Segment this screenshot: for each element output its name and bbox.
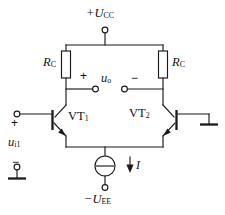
resistor-right-label: RC [172,56,185,69]
supply-positive-label: +UCC [86,7,114,20]
vt2-collector-lead [163,105,174,117]
resistor-left-label: RC [43,56,56,69]
input-minus-sign: − [12,156,19,168]
output-plus-terminal[interactable] [93,86,99,92]
resistor-left-body [62,51,71,78]
vee-terminal[interactable] [102,185,108,191]
transistor-left-group [20,105,66,147]
input-plus-sign: + [11,117,18,129]
output-plus-sign: + [80,70,87,82]
vt1-emitter-arrow [58,129,66,136]
vt1-collector-lead [55,105,66,117]
resistor-left-group [62,51,71,105]
supply-rail-group [66,27,163,51]
vcc-terminal[interactable] [102,27,108,33]
resistor-right-group [159,51,168,105]
transistor-right-group [163,105,209,147]
differential-amplifier-circuit: +UCC −UEE RC RC VT1 VT2 uo + − ui1 + − I [0,0,225,215]
current-source-label: I [136,159,140,171]
supply-negative-label: −UEE [84,193,111,206]
ground-right-group [200,114,218,125]
output-minus-sign: − [131,72,138,84]
input-voltage-label: ui1 [8,136,20,149]
arrow-down-icon [126,165,133,174]
output-voltage-label: uo [101,72,111,85]
transistor-left-label: VT1 [68,110,89,123]
circuit-schematic-svg [0,0,225,215]
transistor-right-label: VT2 [129,107,150,120]
tail-current-source-group [66,147,163,190]
output-branch-group [66,86,163,92]
vt2-emitter-arrow [163,129,171,136]
output-minus-terminal[interactable] [122,86,128,92]
resistor-right-body [159,51,168,78]
